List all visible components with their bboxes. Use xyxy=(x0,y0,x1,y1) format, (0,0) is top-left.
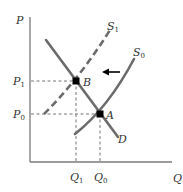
shift-arrow-icon xyxy=(102,69,120,76)
supply-curve-s0 xyxy=(75,59,134,134)
q0-label: Q0 xyxy=(94,171,108,185)
demand-curve xyxy=(46,40,118,137)
y-axis-label: P xyxy=(15,14,24,27)
supply-s0-label: S0 xyxy=(133,46,145,60)
q1-label: Q1 xyxy=(70,171,84,185)
point-b-label: B xyxy=(82,76,91,89)
point-a-label: A xyxy=(105,109,114,122)
supply-s1-label: S1 xyxy=(107,20,119,34)
point-a-marker xyxy=(97,111,104,118)
supply-curve-s1 xyxy=(44,30,110,114)
point-b-marker xyxy=(73,78,80,85)
demand-label: D xyxy=(117,133,127,146)
supply-demand-diagram: P Q P1 P0 Q1 Q0 B A D S1 S0 xyxy=(0,0,183,192)
x-axis-label: Q xyxy=(173,172,182,185)
diagram-canvas: P Q P1 P0 Q1 Q0 B A D S1 S0 xyxy=(0,0,183,192)
axes xyxy=(30,17,172,162)
p0-label: P0 xyxy=(12,108,25,122)
p1-label: P1 xyxy=(12,75,25,89)
